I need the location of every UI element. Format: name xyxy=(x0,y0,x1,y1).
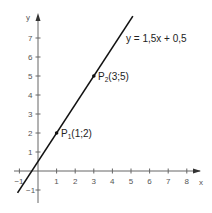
x-tick-label: 4 xyxy=(110,177,115,186)
y-tick-label: −1 xyxy=(26,186,36,195)
y-tick-label: 2 xyxy=(28,129,33,138)
coordinate-plot: x y −112345678 −11234567 P1(1;2) P2(3;5)… xyxy=(0,0,212,213)
y-axis-label: y xyxy=(26,13,30,22)
x-tick-label: 7 xyxy=(166,177,171,186)
x-tick-label: 6 xyxy=(147,177,152,186)
x-tick-label: 1 xyxy=(54,177,59,186)
p2-coords: (3;5) xyxy=(108,71,129,82)
point-p2-label: P2(3;5) xyxy=(98,71,129,83)
point-p1-marker xyxy=(55,131,59,135)
x-axis-arrow-icon xyxy=(193,169,201,174)
p1-coords: (1;2) xyxy=(71,128,92,139)
y-tick-label: 1 xyxy=(28,148,33,157)
y-tick-label: 5 xyxy=(28,72,33,81)
x-tick-label: 3 xyxy=(92,177,97,186)
x-tick-label: 2 xyxy=(73,177,78,186)
y-tick-label: 6 xyxy=(28,53,33,62)
x-axis-label: x xyxy=(199,178,203,187)
y-tick-label: 4 xyxy=(28,91,33,100)
y-tick-label: 7 xyxy=(28,34,33,43)
equation-label: y = 1,5x + 0,5 xyxy=(126,33,187,44)
y-tick-label: 3 xyxy=(28,110,33,119)
x-tick-label: 8 xyxy=(185,177,190,186)
x-tick-label: 5 xyxy=(129,177,134,186)
point-p2-marker xyxy=(92,74,96,78)
point-p1-label: P1(1;2) xyxy=(61,128,92,140)
linear-function-line xyxy=(18,16,133,193)
y-axis-arrow-icon xyxy=(36,13,41,21)
